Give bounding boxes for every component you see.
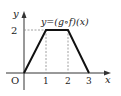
- x-axis-label: x: [105, 74, 111, 85]
- function-label: y=(g∘f)(x): [40, 16, 89, 27]
- function-curve: [24, 30, 89, 73]
- y-axis-label: y: [12, 8, 19, 19]
- x-tick-3: 3: [86, 76, 92, 86]
- y-tick-2: 2: [11, 25, 17, 36]
- x-tick-1: 1: [43, 76, 49, 86]
- origin-label: O: [11, 75, 19, 86]
- x-tick-2: 2: [65, 76, 71, 86]
- function-graph: y 2 O 1 2 3 x y=(g∘f)(x): [0, 0, 121, 96]
- y-axis-arrow-icon: [22, 11, 27, 18]
